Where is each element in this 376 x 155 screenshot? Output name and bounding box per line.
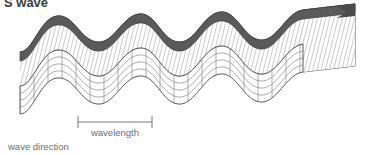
figure-title-text: S wave: [4, 0, 48, 10]
wave-direction-group: wave direction: [7, 141, 69, 152]
s-wave-diagram: S wave: [0, 0, 376, 155]
figure-title: S wave: [4, 0, 48, 10]
figure-container: S wave: [0, 0, 376, 155]
wave-direction-label: wave direction: [7, 141, 69, 152]
wavelength-label: wavelength: [90, 127, 139, 138]
wavelength-measure: wavelength: [78, 116, 152, 138]
